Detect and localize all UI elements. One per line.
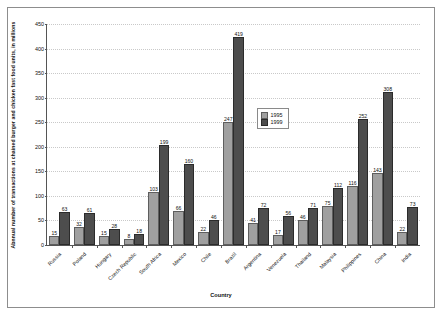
- bar-value-label: 46: [211, 214, 217, 220]
- y-axis-label: Abnnual number of transactions at chaine…: [6, 20, 20, 250]
- bar-value-label: 71: [310, 202, 316, 208]
- bar-1999-argentina[interactable]: 72: [258, 208, 268, 245]
- x-tick-label: Thailand: [293, 251, 312, 270]
- bar-1995-mexico[interactable]: 66: [173, 211, 183, 245]
- bar-value-label: 41: [250, 217, 256, 223]
- bar-groups: 1563326115288181031996616022462474194172…: [47, 24, 420, 245]
- x-tick-mark: [196, 245, 197, 248]
- bar-group: 66160: [171, 24, 196, 245]
- bar-group: 247419: [221, 24, 246, 245]
- bar-value-label: 8: [127, 233, 130, 239]
- bar-1995-malaysia[interactable]: 75: [322, 206, 332, 245]
- x-tick-label: Brazil: [224, 251, 238, 265]
- bar-value-label: 17: [275, 229, 281, 235]
- bar-1995-chile[interactable]: 22: [198, 232, 208, 245]
- legend-label-1995: 1995: [271, 112, 283, 118]
- bar-1995-argentina[interactable]: 41: [248, 223, 258, 245]
- bar-value-label: 73: [410, 201, 416, 207]
- x-tick-mark: [271, 245, 272, 248]
- bar-value-label: 28: [111, 223, 117, 229]
- bar-1999-venezuela[interactable]: 56: [283, 216, 293, 246]
- y-tick-label: 450: [35, 21, 44, 27]
- bar-1999-brazil[interactable]: 419: [233, 37, 243, 245]
- bar-value-label: 116: [348, 180, 356, 186]
- bar-1999-malaysia[interactable]: 112: [333, 188, 343, 245]
- y-tick-label: 200: [35, 144, 44, 150]
- x-tick-label-cell: India: [395, 250, 420, 290]
- x-tick-mark: [221, 245, 222, 248]
- y-axis-label-text: Abnnual number of transactions at chaine…: [10, 21, 16, 249]
- bar-value-label: 56: [286, 210, 292, 216]
- legend-item[interactable]: 1995: [261, 112, 283, 119]
- bar-1999-mexico[interactable]: 160: [184, 164, 194, 245]
- bar-value-label: 63: [62, 206, 68, 212]
- bar-group: 818: [122, 24, 147, 245]
- legend-swatch-1995: [261, 112, 268, 119]
- x-tick-label-cell: Chile: [196, 250, 221, 290]
- x-tick-label: China: [373, 251, 387, 265]
- bar-value-label: 15: [101, 230, 107, 236]
- bar-1995-south-africa[interactable]: 103: [148, 192, 158, 245]
- bar-1995-poland[interactable]: 32: [74, 227, 84, 245]
- bar-1999-thailand[interactable]: 71: [308, 208, 318, 245]
- x-tick-label: Malaysia: [318, 251, 337, 270]
- x-tick-label-cell: Mexico: [171, 250, 196, 290]
- bar-1999-india[interactable]: 73: [407, 207, 417, 245]
- x-tick-mark: [246, 245, 247, 248]
- bar-1995-philippines[interactable]: 116: [347, 186, 357, 245]
- bar-1995-czech-republic[interactable]: 8: [124, 239, 134, 245]
- bar-value-label: 46: [300, 214, 306, 220]
- bar-1999-czech-republic[interactable]: 18: [134, 234, 144, 245]
- bar-1995-russia[interactable]: 15: [49, 236, 59, 245]
- y-tick-mark: [45, 245, 48, 246]
- legend-label-1999: 1999: [271, 119, 283, 125]
- x-tick-label-cell: South Africa: [146, 250, 171, 290]
- bar-1995-india[interactable]: 22: [397, 232, 407, 245]
- bar-group: 1528: [97, 24, 122, 245]
- x-tick-label-cell: Venezuela: [270, 250, 295, 290]
- bar-1995-china[interactable]: 143: [372, 173, 382, 245]
- legend-swatch-1999: [261, 119, 268, 126]
- chart-legend: 1995 1999: [257, 108, 289, 129]
- x-tick-label-cell: Philippines: [345, 250, 370, 290]
- y-tick-label: 250: [35, 119, 44, 125]
- bar-1999-philippines[interactable]: 252: [358, 119, 368, 245]
- bar-value-label: 103: [149, 186, 158, 192]
- bar-1999-china[interactable]: 308: [383, 92, 393, 245]
- x-tick-label: Russia: [47, 251, 63, 267]
- bar-1995-hungary[interactable]: 15: [99, 236, 109, 245]
- legend-item[interactable]: 1999: [261, 119, 283, 126]
- bar-group: 1756: [271, 24, 296, 245]
- x-tick-label: India: [399, 251, 411, 263]
- bar-value-label: 419: [234, 31, 243, 37]
- bar-1995-brazil[interactable]: 247: [223, 122, 233, 245]
- y-tick-label: 50: [38, 217, 44, 223]
- x-tick-label: Chile: [200, 251, 213, 264]
- bar-value-label: 199: [160, 139, 169, 145]
- bar-value-label: 75: [325, 200, 331, 206]
- bar-group: 1563: [47, 24, 72, 245]
- bar-value-label: 22: [399, 226, 405, 232]
- y-tick-label: 150: [35, 168, 44, 174]
- bar-1999-chile[interactable]: 46: [209, 220, 219, 245]
- bar-1999-poland[interactable]: 61: [84, 213, 94, 245]
- y-tick-label: 350: [35, 70, 44, 76]
- bar-group: 116252: [345, 24, 370, 245]
- y-tick-label: 0: [41, 242, 44, 248]
- bar-group: 103199: [146, 24, 171, 245]
- bar-1995-venezuela[interactable]: 17: [273, 235, 283, 245]
- bar-value-label: 160: [185, 158, 194, 164]
- bar-1995-thailand[interactable]: 46: [298, 220, 308, 245]
- x-tick-mark: [370, 245, 371, 248]
- bar-value-label: 247: [224, 116, 233, 122]
- y-tick-label: 100: [35, 193, 44, 199]
- x-tick-label-cell: Russia: [46, 250, 71, 290]
- bar-value-label: 308: [384, 86, 393, 92]
- bar-1999-hungary[interactable]: 28: [109, 229, 119, 245]
- bar-1999-south-africa[interactable]: 199: [159, 145, 169, 245]
- bar-group: 2246: [196, 24, 221, 245]
- bar-value-label: 15: [51, 230, 57, 236]
- bar-1999-russia[interactable]: 63: [59, 212, 69, 245]
- y-tick-label: 300: [35, 95, 44, 101]
- bar-value-label: 18: [136, 228, 142, 234]
